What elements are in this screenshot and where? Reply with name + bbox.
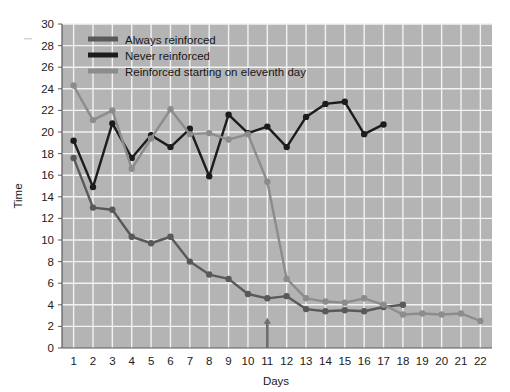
x-tick-label: 17 (377, 355, 390, 367)
data-point (419, 310, 425, 316)
data-point (109, 107, 115, 113)
line-chart: 024681012141618202224262830 123456789101… (0, 0, 510, 392)
x-tick-label: 14 (319, 355, 332, 367)
data-point (361, 131, 367, 137)
data-point (187, 258, 193, 264)
data-point (342, 307, 348, 313)
y-tick-label: 6 (48, 277, 54, 289)
x-tick-label: 12 (280, 355, 293, 367)
data-point (283, 276, 289, 282)
data-point (90, 204, 96, 210)
y-tick-label: 20 (41, 126, 54, 138)
x-tick-label: 13 (300, 355, 313, 367)
data-point (167, 106, 173, 112)
y-tick-label: 26 (41, 61, 54, 73)
data-point (400, 302, 406, 308)
y-tick-label: 10 (41, 234, 54, 246)
data-point (361, 295, 367, 301)
y-tick-label: 22 (41, 104, 54, 116)
x-tick-label: 3 (109, 355, 115, 367)
data-point (283, 144, 289, 150)
data-point (380, 302, 386, 308)
data-point (148, 135, 154, 141)
y-tick-label: 14 (41, 191, 54, 203)
y-tick-label: 16 (41, 169, 54, 181)
data-point (129, 166, 135, 172)
y-tick-label: 0 (48, 342, 54, 354)
x-tick-label: 10 (242, 355, 255, 367)
data-point (70, 155, 76, 161)
data-point (438, 311, 444, 317)
x-tick-label: 16 (358, 355, 371, 367)
y-tick-label: 24 (41, 83, 54, 95)
y-tick-label: 8 (48, 256, 54, 268)
data-point (206, 271, 212, 277)
x-tick-label: 7 (187, 355, 193, 367)
data-point (225, 112, 231, 118)
data-point (109, 120, 115, 126)
data-point (206, 130, 212, 136)
y-tick-label: 12 (41, 212, 54, 224)
data-point (322, 298, 328, 304)
data-point (303, 295, 309, 301)
y-axis-tick-labels: 024681012141618202224262830 (41, 18, 62, 354)
data-point (380, 121, 386, 127)
data-point (245, 131, 251, 137)
data-point (206, 173, 212, 179)
y-tick-label: 18 (41, 148, 54, 160)
data-point (342, 99, 348, 105)
scan-artifact-dash (24, 38, 32, 40)
data-point (361, 308, 367, 314)
x-tick-label: 5 (148, 355, 154, 367)
data-point (477, 318, 483, 324)
data-point (225, 136, 231, 142)
data-point (167, 144, 173, 150)
x-tick-label: 1 (70, 355, 76, 367)
y-tick-label: 28 (41, 40, 54, 52)
legend-label: Reinforced starting on eleventh day (125, 66, 306, 78)
data-point (90, 184, 96, 190)
y-axis-title: Time (12, 183, 24, 208)
data-point (283, 293, 289, 299)
data-point (322, 308, 328, 314)
chart-container: 024681012141618202224262830 123456789101… (0, 0, 510, 392)
data-point (70, 82, 76, 88)
data-point (322, 101, 328, 107)
data-point (303, 306, 309, 312)
x-tick-label: 18 (397, 355, 410, 367)
data-point (245, 291, 251, 297)
x-tick-label: 19 (416, 355, 429, 367)
x-tick-label: 22 (474, 355, 487, 367)
data-point (458, 310, 464, 316)
x-tick-label: 20 (435, 355, 448, 367)
x-tick-label: 21 (455, 355, 468, 367)
data-point (264, 295, 270, 301)
x-tick-label: 6 (167, 355, 173, 367)
x-tick-label: 15 (338, 355, 351, 367)
y-tick-label: 4 (48, 299, 55, 311)
data-point (90, 117, 96, 123)
legend-label: Never reinforced (125, 50, 210, 62)
data-point (303, 114, 309, 120)
data-point (264, 123, 270, 129)
data-point (400, 311, 406, 317)
data-point (148, 240, 154, 246)
data-point (225, 276, 231, 282)
x-axis-title: Days (263, 375, 289, 387)
x-tick-label: 8 (206, 355, 212, 367)
data-point (187, 131, 193, 137)
data-point (342, 299, 348, 305)
data-point (129, 234, 135, 240)
y-tick-label: 30 (41, 18, 54, 30)
data-point (264, 178, 270, 184)
x-tick-label: 4 (129, 355, 136, 367)
legend-label: Always reinforced (125, 34, 216, 46)
x-tick-label: 2 (90, 355, 96, 367)
x-tick-label: 9 (225, 355, 231, 367)
data-point (70, 137, 76, 143)
x-axis-tick-labels: 12345678910111213141516171819202122 (70, 355, 486, 367)
data-point (167, 234, 173, 240)
x-tick-label: 11 (261, 355, 273, 367)
data-point (109, 207, 115, 213)
y-tick-label: 2 (48, 320, 54, 332)
